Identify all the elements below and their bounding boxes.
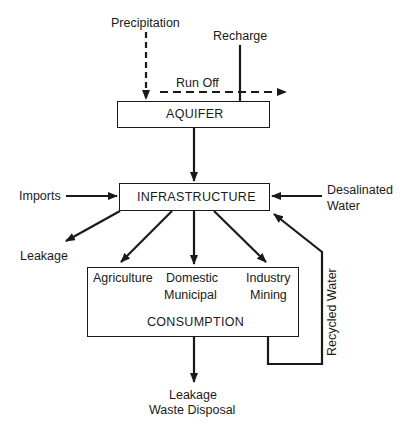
imports-label: Imports	[19, 189, 61, 204]
runoff-label: Run Off	[176, 76, 219, 91]
sector-municipal: Municipal	[164, 288, 217, 303]
leakage-arrow	[66, 211, 120, 241]
to-agriculture-arrow	[121, 211, 172, 262]
leakage-label: Leakage	[20, 249, 68, 264]
final-leakage-label: Leakage	[169, 388, 217, 403]
recharge-label: Recharge	[213, 29, 267, 44]
infrastructure-box: INFRASTRUCTURE	[119, 183, 270, 211]
infrastructure-title: INFRASTRUCTURE	[137, 190, 256, 204]
aquifer-title: AQUIFER	[166, 107, 224, 121]
to-industry-arrow	[214, 211, 266, 262]
precipitation-label: Precipitation	[111, 16, 180, 31]
sector-mining: Mining	[250, 288, 287, 303]
desalinated-label-line1: Desalinated	[327, 183, 393, 198]
sector-industry: Industry	[246, 271, 290, 286]
recycled-water-label: Recycled Water	[325, 268, 339, 356]
desalinated-label-line2: Water	[327, 199, 360, 214]
sector-agriculture: Agriculture	[93, 271, 153, 286]
consumption-title: CONSUMPTION	[147, 315, 244, 329]
diagram-connectors	[0, 0, 415, 433]
aquifer-box: AQUIFER	[117, 101, 270, 128]
consumption-box: Agriculture Domestic Municipal Industry …	[87, 267, 299, 337]
waste-disposal-label: Waste Disposal	[149, 403, 235, 418]
sector-domestic: Domestic	[166, 271, 218, 286]
